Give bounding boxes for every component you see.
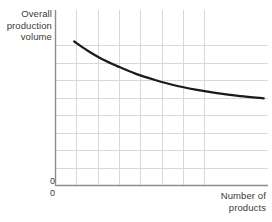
x-axis-title: Number of products — [150, 190, 266, 213]
x-axis-origin-label: 0 — [45, 188, 55, 198]
production-volume-curve — [74, 42, 264, 99]
chart-screenshot: Overall production volume Number of prod… — [0, 0, 272, 222]
y-axis-origin-label: 0 — [45, 176, 55, 186]
horizontal-gridlines — [55, 46, 268, 169]
y-axis-title: Overall production volume — [0, 8, 52, 43]
vertical-gridlines — [77, 10, 205, 185]
production-volume-line-chart: Overall production volume Number of prod… — [0, 0, 272, 222]
